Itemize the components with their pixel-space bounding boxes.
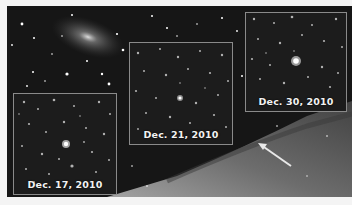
arrow-pointer-icon	[7, 6, 352, 197]
galaxy-image: Dec. 17, 2010 Dec. 21, 2010	[7, 6, 352, 197]
